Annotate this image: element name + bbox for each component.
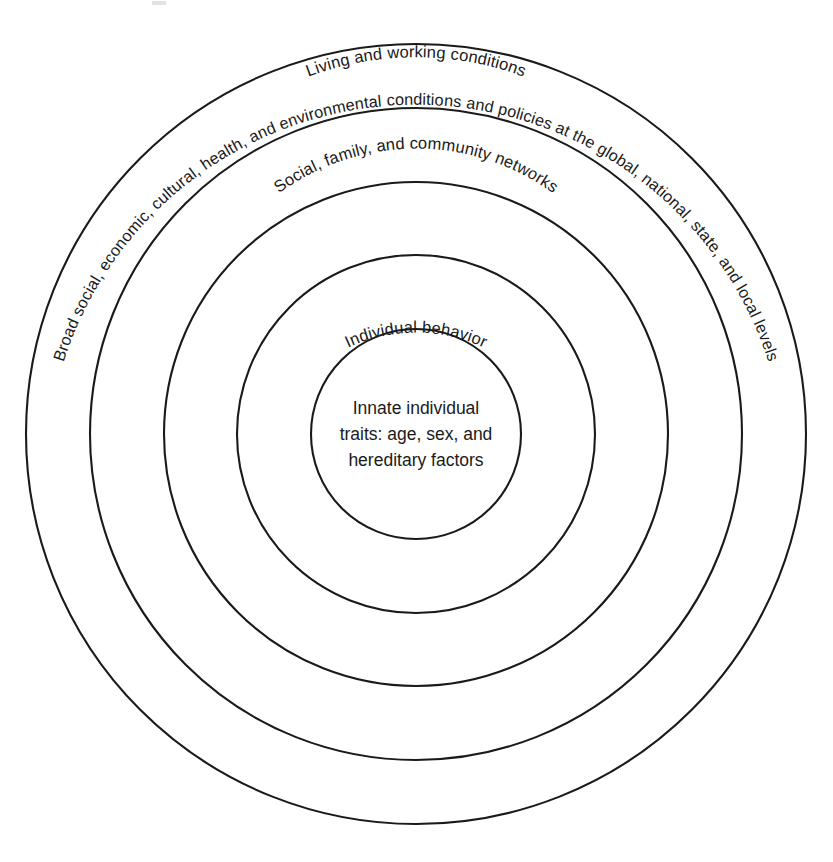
ring-label-living-working: Living and working conditions: [303, 42, 528, 79]
scan-artifact-speck: [152, 1, 166, 5]
ring-label-individual-behavior-text: Individual behavior: [342, 317, 491, 350]
center-label-line-3: hereditary factors: [348, 450, 483, 470]
center-label-line-1: Innate individual: [353, 398, 479, 418]
ring-label-social-networks: Social, family, and community networks: [270, 134, 562, 196]
concentric-circles-diagram: Broad social, economic, cultural, health…: [0, 0, 833, 862]
ring-label-social-networks-text: Social, family, and community networks: [270, 134, 562, 196]
ring-label-individual-behavior: Individual behavior: [342, 317, 491, 350]
rings-svg-canvas: Broad social, economic, cultural, health…: [0, 0, 833, 862]
center-label-line-2: traits: age, sex, and: [340, 424, 493, 444]
ring-label-living-working-text: Living and working conditions: [303, 42, 528, 79]
